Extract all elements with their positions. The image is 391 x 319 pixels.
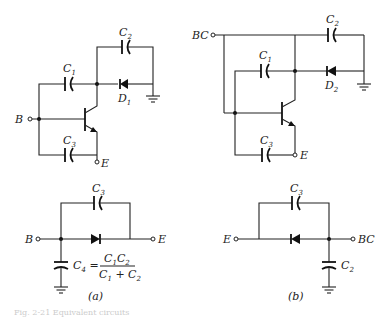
label-c3-eq-b: C3 [290,182,303,197]
label-b-eq: B [24,233,33,246]
label-b: B [14,113,23,126]
terminal-e [95,160,99,164]
diode-d1-icon [120,79,128,89]
label-c3-eq: C3 [92,182,105,197]
terminal-bc [211,33,215,37]
label-e-eq: E [157,233,166,246]
panel-a-label: (a) [88,290,103,303]
ground-icon [322,287,336,293]
label-c2-eq: C2 [341,259,354,274]
ground-icon [357,71,371,90]
ground-icon [146,84,160,102]
terminal-b [28,117,32,121]
label-c4: C4 = [73,259,99,274]
panel-b-top-circuit: BC C2 C1 D2 [191,13,371,162]
panel-a-top-circuit: C2 C1 D1 B [14,26,160,170]
label-c1: C1 [63,62,76,77]
diode-icon [91,234,100,244]
label-c3-b: C3 [260,134,273,149]
label-bc: BC [191,29,209,42]
transistor-icon [282,71,295,153]
label-c1-b: C1 [259,49,272,64]
formula-numerator: C1C2 [104,252,130,267]
formula-denominator: C1 + C2 [99,268,142,283]
circuit-figure: C2 C1 D1 B [0,0,391,319]
label-e-eq-b: E [222,233,231,246]
panel-b-label: (b) [288,290,304,303]
transistor-icon [85,84,97,160]
panel-a-equivalent: C3 B E C4 = C1C2 C1 + C2 (a) [24,182,166,303]
label-e-b: E [299,149,308,162]
label-c2: C2 [119,26,132,41]
label-d2: D2 [324,79,339,94]
terminal-e-b [293,153,297,157]
diode-icon [291,234,300,244]
ground-icon [54,287,68,293]
label-e: E [100,157,109,170]
label-c3: C3 [63,134,76,149]
figure-caption: Fig. 2-21 Equivalent circuits [14,308,129,317]
diode-d2-icon [327,66,336,76]
panel-b-equivalent: C3 E BC C2 (b) [222,182,375,303]
label-bc-eq: BC [357,233,375,246]
label-c2-b: C2 [326,13,339,28]
label-d1: D1 [117,92,131,107]
